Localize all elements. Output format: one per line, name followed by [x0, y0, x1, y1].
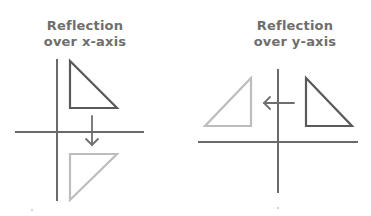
stray-dot	[31, 209, 33, 211]
x-axis-reflection-diagram	[15, 59, 144, 201]
reflected-triangle	[205, 78, 251, 126]
y-axis-reflection-diagram	[198, 69, 358, 193]
original-triangle	[306, 78, 352, 126]
arrow-down-icon	[86, 116, 98, 145]
reflection-diagrams	[0, 0, 371, 216]
original-triangle	[70, 61, 117, 108]
stray-dot	[277, 207, 279, 209]
reflected-triangle	[70, 154, 117, 200]
